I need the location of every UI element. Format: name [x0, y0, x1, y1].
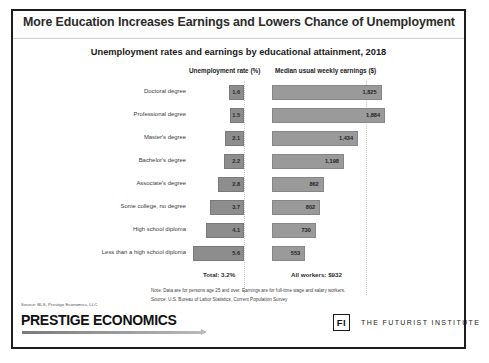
unemployment-value: 2.2	[232, 158, 240, 164]
category-label: Master's degree	[13, 134, 186, 140]
earnings-value: 862	[309, 181, 318, 187]
page-title: More Education Increases Earnings and Lo…	[23, 15, 455, 29]
total-unemployment: Total: 3.2%	[203, 271, 235, 278]
earnings-bar-track: 553	[272, 246, 392, 261]
earnings-bar: 802	[272, 200, 320, 215]
earnings-bar: 1,825	[272, 85, 382, 100]
unemployment-value: 4.1	[232, 227, 240, 233]
unemployment-bar-track: 1.5	[189, 108, 244, 123]
unemployment-value: 1.5	[232, 112, 240, 118]
earnings-bar-track: 862	[272, 177, 392, 192]
chart-area: Unemployment rates and earnings by educa…	[13, 39, 464, 309]
earnings-bar-track: 1,884	[272, 108, 392, 123]
unemployment-bar: 1.6	[229, 85, 244, 100]
chart-row: Associate's degree2.8862	[13, 175, 464, 198]
earnings-bar-track: 1,198	[272, 154, 392, 169]
unemployment-bar-track: 3.7	[189, 200, 244, 215]
unemployment-value: 2.1	[232, 135, 240, 141]
earnings-bar: 1,434	[272, 131, 358, 146]
category-label: High school diploma	[13, 226, 186, 232]
unemployment-bar: 2.1	[225, 131, 244, 146]
category-label: Some college, no degree	[13, 203, 186, 209]
unemployment-bar: 4.1	[206, 223, 244, 238]
slide-frame: More Education Increases Earnings and Lo…	[11, 9, 466, 349]
earnings-bar-track: 730	[272, 223, 392, 238]
slide-footer: Source: BLS, Prestige Economics, LLC PRE…	[13, 306, 464, 347]
footer-source-credit: Source: BLS, Prestige Economics, LLC	[21, 302, 97, 307]
chart-note: Note: Data are for persons age 25 and ov…	[151, 288, 345, 293]
earnings-value: 1,198	[325, 158, 339, 164]
unemployment-value: 3.7	[232, 204, 240, 210]
unemployment-bar: 1.5	[230, 108, 244, 123]
column-header-earnings: Median usual weekly earnings ($)	[275, 67, 376, 74]
unemployment-bar: 3.7	[210, 200, 244, 215]
earnings-value: 1,434	[339, 135, 353, 141]
brand-arrow-rule	[22, 331, 202, 334]
earnings-value: 1,825	[363, 89, 377, 95]
earnings-value: 802	[306, 204, 315, 210]
chart-row: Master's degree2.11,434	[13, 129, 464, 152]
earnings-bar-track: 802	[272, 200, 392, 215]
earnings-value: 730	[301, 227, 310, 233]
earnings-bar: 730	[272, 223, 316, 238]
earnings-bar-track: 1,434	[272, 131, 392, 146]
unemployment-bar-track: 2.8	[189, 177, 244, 192]
chart-row: Some college, no degree3.7802	[13, 198, 464, 221]
chart-source: Source: U.S. Bureau of Labor Statistics,…	[151, 297, 287, 302]
earnings-value: 553	[291, 250, 300, 256]
brand-wordmark: PRESTIGE ECONOMICS	[21, 312, 177, 328]
category-label: Less than a high school diploma	[13, 249, 186, 255]
total-earnings: All workers: $932	[291, 271, 342, 278]
category-label: Professional degree	[13, 111, 186, 117]
chart-subtitle: Unemployment rates and earnings by educa…	[13, 47, 464, 57]
chart-row: High school diploma4.1730	[13, 221, 464, 244]
chart-row: Less than a high school diploma5.6553	[13, 244, 464, 267]
earnings-value: 1,884	[366, 112, 380, 118]
unemployment-bar-track: 5.6	[189, 246, 244, 261]
chart-rows: Doctoral degree1.61,825Professional degr…	[13, 83, 464, 267]
earnings-bar: 1,198	[272, 154, 344, 169]
unemployment-bar: 5.6	[193, 246, 244, 261]
chart-row: Professional degree1.51,884	[13, 106, 464, 129]
earnings-bar: 862	[272, 177, 324, 192]
unemployment-value: 5.6	[232, 250, 240, 256]
slide-title-bar: More Education Increases Earnings and Lo…	[13, 11, 464, 39]
unemployment-bar-track: 4.1	[189, 223, 244, 238]
futurist-institute-logo-icon: FI	[333, 314, 350, 331]
chart-row: Doctoral degree1.61,825	[13, 83, 464, 106]
category-label: Bachelor's degree	[13, 157, 186, 163]
unemployment-bar-track: 2.1	[189, 131, 244, 146]
unemployment-bar-track: 1.6	[189, 85, 244, 100]
futurist-institute-name: THE FUTURIST INSTITUTE	[361, 319, 480, 326]
unemployment-value: 2.8	[232, 181, 240, 187]
earnings-bar: 553	[272, 246, 305, 261]
unemployment-bar: 2.8	[218, 177, 244, 192]
unemployment-bar: 2.2	[224, 154, 244, 169]
chart-row: Bachelor's degree2.21,198	[13, 152, 464, 175]
column-header-unemployment: Unemployment rate (%)	[189, 67, 260, 74]
category-label: Associate's degree	[13, 180, 186, 186]
earnings-bar-track: 1,825	[272, 85, 392, 100]
unemployment-bar-track: 2.2	[189, 154, 244, 169]
earnings-bar: 1,884	[272, 108, 385, 123]
unemployment-value: 1.6	[232, 89, 240, 95]
category-label: Doctoral degree	[13, 88, 186, 94]
